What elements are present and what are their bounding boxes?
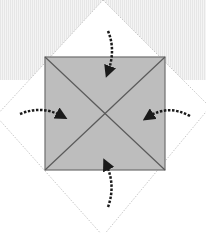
origami-diagram [0,0,206,233]
diagram-canvas [0,0,206,233]
